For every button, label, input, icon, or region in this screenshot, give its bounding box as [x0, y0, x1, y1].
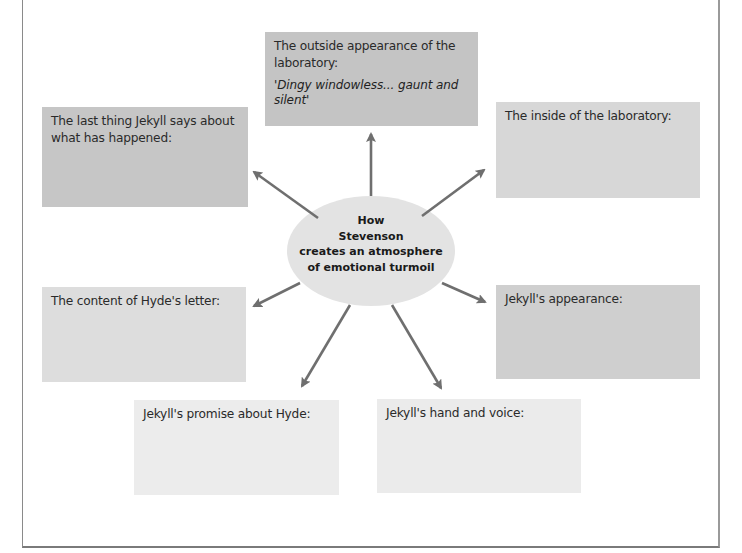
center-line-2: Stevenson [287, 229, 455, 245]
arrow-to-inside-lab [422, 170, 484, 216]
arrow-to-last-thing [254, 172, 318, 218]
arrow-to-jekyll-appearance [442, 283, 485, 302]
center-line-4: of emotional turmoil [287, 260, 455, 276]
arrow-to-hand-voice [392, 305, 441, 388]
node-label: The last thing Jekyll says about what ha… [51, 113, 239, 147]
node-last-thing: The last thing Jekyll says about what ha… [42, 107, 248, 207]
center-line-3: creates an atmosphere [287, 244, 455, 260]
node-outside-lab: The outside appearance of the laboratory… [265, 32, 478, 126]
node-label: The outside appearance of the laboratory… [274, 38, 469, 72]
arrow-to-jekyll-promise [302, 305, 350, 386]
node-hand-voice: Jekyll's hand and voice: [377, 399, 581, 493]
arrow-to-hyde-letter [254, 283, 300, 306]
node-label: Jekyll's appearance: [505, 291, 691, 308]
node-inside-lab: The inside of the laboratory: [496, 102, 700, 198]
node-hyde-letter: The content of Hyde's letter: [42, 287, 246, 382]
center-line-1: How [287, 213, 455, 229]
node-label: Jekyll's promise about Hyde: [143, 406, 330, 423]
node-label: The content of Hyde's letter: [51, 293, 237, 310]
node-label: The inside of the laboratory: [505, 108, 691, 125]
center-topic: How Stevenson creates an atmosphere of e… [287, 213, 455, 275]
node-label: Jekyll's hand and voice: [386, 405, 572, 422]
node-quote: 'Dingy windowless... gaunt and silent' [274, 78, 469, 108]
node-jekyll-appearance: Jekyll's appearance: [496, 285, 700, 379]
node-jekyll-promise: Jekyll's promise about Hyde: [134, 400, 339, 495]
